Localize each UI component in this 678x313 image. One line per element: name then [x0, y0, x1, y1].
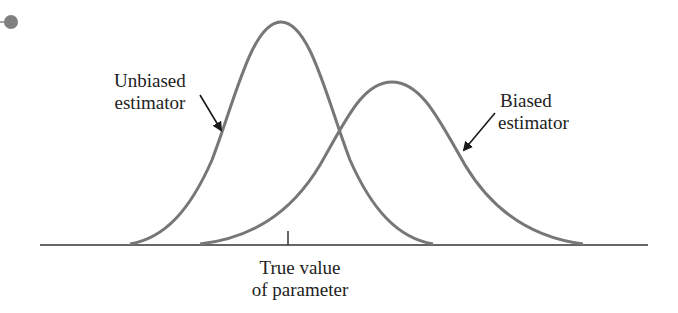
bullet-dot-icon: [4, 15, 18, 29]
biased-label-line2: estimator: [498, 112, 569, 134]
biased-label: Biased estimator: [498, 90, 569, 134]
unbiased-arrow-icon: [200, 95, 221, 130]
true-value-label-line1: True value: [240, 257, 360, 279]
unbiased-label-line1: Unbiased: [114, 70, 186, 92]
true-value-label: True value of parameter: [240, 257, 360, 301]
unbiased-label: Unbiased estimator: [114, 70, 186, 114]
biased-arrow-icon: [464, 113, 495, 150]
biased-label-line1: Biased: [498, 90, 569, 112]
unbiased-label-line2: estimator: [114, 92, 186, 114]
true-value-label-line2: of parameter: [240, 279, 360, 301]
